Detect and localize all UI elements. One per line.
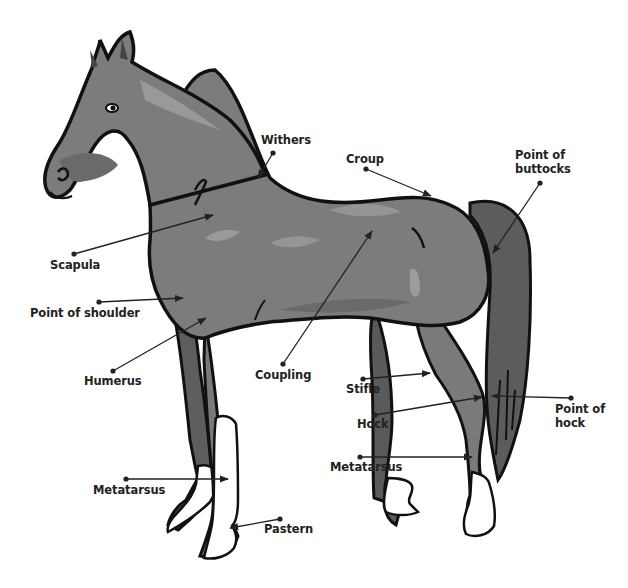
label-humerus: Humerus (84, 374, 142, 388)
label-point-of-hock: Point of hock (555, 402, 605, 430)
label-stifle: Stifle (346, 382, 380, 396)
leader-point-of-hock (492, 395, 574, 400)
horse-anatomy-diagram: Withers Croup Point of buttocks Scapula … (0, 0, 628, 588)
leader-humerus (110, 318, 206, 374)
leader-croup (363, 166, 431, 196)
leader-point-of-buttocks (493, 180, 543, 253)
label-point-of-shoulder: Point of shoulder (30, 306, 140, 320)
label-point-of-buttocks: Point of buttocks (515, 148, 571, 176)
leader-scapula (71, 215, 213, 257)
leader-stifle (360, 373, 430, 382)
leader-withers (258, 150, 276, 178)
leader-metatarsus-hind (357, 454, 472, 459)
leader-metatarsus-fore (123, 476, 228, 481)
label-pastern: Pastern (264, 522, 313, 536)
label-scapula: Scapula (50, 258, 100, 272)
leader-lines (0, 0, 628, 588)
label-hock: Hock (357, 417, 389, 431)
label-metatarsus-hind: Metatarsus (330, 460, 402, 474)
label-metatarsus-fore: Metatarsus (93, 483, 165, 497)
leader-point-of-shoulder (96, 298, 183, 305)
label-croup: Croup (346, 152, 384, 166)
label-withers: Withers (261, 133, 311, 147)
leader-hock (372, 397, 482, 418)
leader-coupling (280, 231, 372, 367)
label-coupling: Coupling (255, 368, 311, 382)
